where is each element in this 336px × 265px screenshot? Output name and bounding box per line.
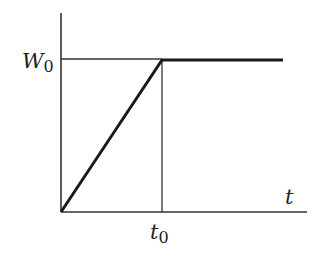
x-axis-label: t	[285, 185, 294, 209]
y-tick-subscript: 0	[44, 57, 54, 76]
y-tick-symbol: W	[22, 49, 46, 73]
y-tick-label-w0: W0	[22, 49, 54, 76]
x-tick-subscript: 0	[158, 228, 168, 247]
data-curve	[61, 60, 283, 212]
ramp-graph: W0 t0 t	[0, 0, 336, 265]
x-tick-label-t0: t0	[150, 220, 169, 247]
